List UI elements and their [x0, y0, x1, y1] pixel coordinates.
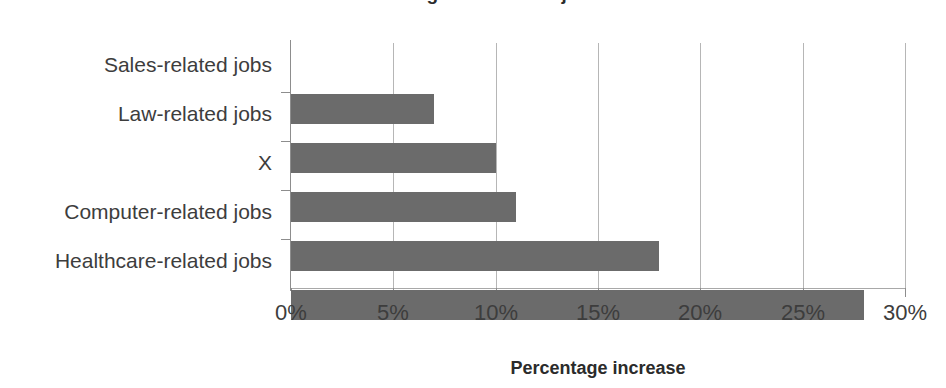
- category-label: X: [0, 151, 281, 175]
- y-tick-mark: [281, 239, 291, 240]
- x-tick-label: 30%: [865, 300, 945, 326]
- x-tick-label: 25%: [763, 300, 843, 326]
- category-label: Computer-related jobs: [0, 200, 281, 224]
- chart-title: Percentage increase in jobs: [0, 0, 946, 4]
- gridline: [905, 43, 906, 288]
- y-tick-mark: [281, 190, 291, 191]
- bar: [291, 192, 516, 222]
- x-axis-title: Percentage increase: [291, 358, 905, 379]
- x-tick-label: 20%: [660, 300, 740, 326]
- y-tick-mark: [281, 92, 291, 93]
- y-tick-mark: [281, 141, 291, 142]
- x-tick-label: 10%: [456, 300, 536, 326]
- x-tick-label: 5%: [353, 300, 433, 326]
- bar: [291, 241, 659, 271]
- x-tick-label: 0%: [251, 300, 331, 326]
- bar: [291, 143, 496, 173]
- category-label: Healthcare-related jobs: [0, 249, 281, 273]
- bar: [291, 94, 434, 124]
- category-label: Sales-related jobs: [0, 53, 281, 77]
- x-tick-label: 15%: [558, 300, 638, 326]
- x-tick-mark: [905, 288, 906, 297]
- plot-area: [291, 43, 905, 288]
- bar-chart: Percentage increase in jobs Sales-relate…: [0, 0, 946, 388]
- category-label: Law-related jobs: [0, 102, 281, 126]
